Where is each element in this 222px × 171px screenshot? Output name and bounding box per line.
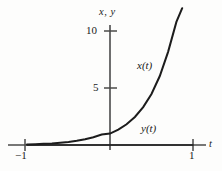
curve-label-x-of-t: x(t) bbox=[137, 60, 152, 71]
plot-canvas bbox=[0, 0, 222, 171]
exponential-plot-figure: x, y t 10 5 −1 1 x(t) y(t) bbox=[0, 0, 222, 171]
x-tick-label-positive-one: 1 bbox=[189, 150, 195, 161]
curve-label-y-of-t: y(t) bbox=[141, 123, 156, 134]
vertical-axis-label: x, y bbox=[99, 7, 116, 18]
x-tick-label-negative-one: −1 bbox=[15, 150, 27, 161]
y-tick-label-ten: 10 bbox=[86, 25, 97, 36]
curve-x-of-t bbox=[27, 8, 182, 144]
y-tick-label-five: 5 bbox=[93, 82, 99, 93]
horizontal-axis-label: t bbox=[209, 139, 212, 150]
